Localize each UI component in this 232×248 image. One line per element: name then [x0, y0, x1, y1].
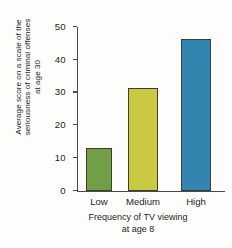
bar-high: [181, 39, 211, 191]
bar-medium: [128, 88, 158, 191]
y-tick-label-10: 10: [55, 151, 66, 162]
x-axis-title: Frequency of TV viewing at age 8: [44, 212, 232, 235]
y-tick-40: 40: [73, 59, 78, 60]
y-axis-title-line-3: at age 30: [33, 60, 43, 94]
y-tick-20: 20: [73, 124, 78, 125]
y-axis-title: Average score on a scale of the seriousn…: [11, 0, 45, 167]
y-axis-title-line-1: Average score on a scale of the: [14, 19, 24, 134]
x-tick-label-low: Low: [90, 196, 108, 207]
plot-area: 0 10 20 30 40 50 Low Medium High: [77, 27, 225, 192]
y-tick-label-50: 50: [55, 20, 66, 31]
y-tick-10: 10: [73, 157, 78, 158]
bar-high-fill: [182, 40, 210, 190]
bar-medium-fill: [129, 89, 157, 190]
y-tick-30: 30: [73, 91, 78, 92]
bar-low-fill: [87, 149, 111, 189]
x-tick-label-medium: Medium: [126, 196, 160, 207]
x-axis-line: [77, 191, 225, 192]
y-tick-50: 50: [73, 26, 78, 27]
y-axis-title-line-2: seriousness of criminal offenses: [23, 19, 33, 136]
y-tick-0: 0: [73, 190, 78, 191]
bar-chart-figure: Average score on a scale of the seriousn…: [0, 0, 232, 248]
bar-low: [86, 148, 112, 190]
y-axis-line: [77, 27, 78, 192]
x-axis-title-line-2: at age 8: [44, 224, 232, 236]
y-tick-label-30: 30: [55, 86, 66, 97]
y-tick-label-40: 40: [55, 53, 66, 64]
y-tick-label-0: 0: [60, 184, 65, 195]
y-tick-label-20: 20: [55, 119, 66, 130]
x-tick-label-high: High: [186, 196, 206, 207]
x-axis-title-line-1: Frequency of TV viewing: [44, 212, 232, 224]
